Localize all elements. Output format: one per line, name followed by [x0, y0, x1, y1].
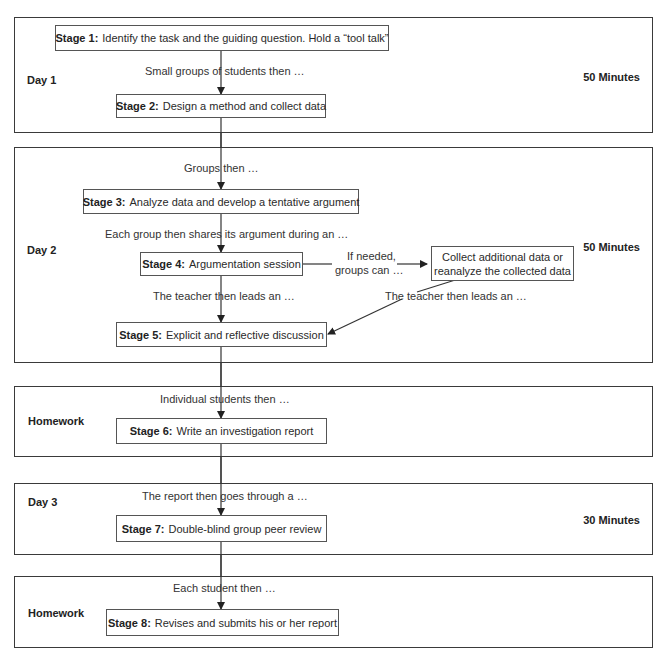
- section-duration: 30 Minutes: [583, 514, 640, 526]
- stage-8-box: Stage 8: Revises and submits his or her …: [106, 609, 339, 636]
- stage-number: Stage 1:: [56, 32, 99, 44]
- connector-label-3: Each group then shares its argument duri…: [105, 228, 348, 240]
- stage-2-box: Stage 2: Design a method and collect dat…: [116, 94, 326, 118]
- branch-condition-line-1: If needed,: [347, 250, 396, 262]
- section-label: Day 3: [28, 496, 57, 508]
- stage-number: Stage 7:: [122, 523, 165, 535]
- stage-text: Analyze data and develop a tentative arg…: [129, 196, 359, 208]
- stage-number: Stage 8:: [108, 617, 151, 629]
- stage-text: Identify the task and the guiding questi…: [102, 32, 388, 44]
- stage-number: Stage 4:: [142, 258, 185, 270]
- section-duration: 50 Minutes: [583, 71, 640, 83]
- connector-label-6: The report then goes through a …: [142, 490, 308, 502]
- connector-label-5: Individual students then …: [160, 393, 290, 405]
- section-homework-1: Homework: [14, 386, 653, 457]
- stage-1-box: Stage 1: Identify the task and the guidi…: [55, 25, 389, 51]
- stage-number: Stage 3:: [83, 196, 126, 208]
- stage-4-box: Stage 4: Argumentation session: [140, 252, 303, 276]
- stage-text: Argumentation session: [189, 258, 301, 270]
- stage-text: Explicit and reflective discussion: [166, 329, 324, 341]
- section-duration: 50 Minutes: [583, 241, 640, 253]
- stage-5-box: Stage 5: Explicit and reflective discuss…: [116, 322, 327, 347]
- stage-text: Design a method and collect data: [163, 100, 326, 112]
- stage-3-box: Stage 3: Analyze data and develop a tent…: [83, 189, 359, 214]
- section-label: Day 1: [27, 74, 56, 86]
- stage-number: Stage 2:: [116, 100, 159, 112]
- connector-label-4: The teacher then leads an …: [153, 290, 295, 302]
- collect-additional-data-box: Collect additional data or reanalyze the…: [431, 246, 574, 281]
- stage-7-box: Stage 7: Double-blind group peer review: [116, 515, 327, 542]
- stage-number: Stage 5:: [119, 329, 162, 341]
- stage-number: Stage 6:: [130, 425, 173, 437]
- stage-text: Double-blind group peer review: [168, 523, 321, 535]
- stage-text: Write an investigation report: [177, 425, 314, 437]
- stage-text: Revises and submits his or her report: [155, 617, 337, 629]
- section-day-3: Day 3 30 Minutes: [14, 483, 653, 555]
- section-label: Day 2: [27, 244, 56, 256]
- connector-label-2: Groups then …: [184, 162, 259, 174]
- connector-label-7: Each student then …: [173, 582, 276, 594]
- section-label: Homework: [28, 415, 84, 427]
- branch-return-label: The teacher then leads an …: [385, 290, 527, 302]
- collect-line-1: Collect additional data or: [432, 250, 573, 264]
- connector-label-1: Small groups of students then …: [145, 65, 305, 77]
- stage-6-box: Stage 6: Write an investigation report: [116, 418, 327, 444]
- section-label: Homework: [28, 607, 84, 619]
- collect-line-2: reanalyze the collected data: [432, 264, 573, 278]
- branch-condition-line-2: groups can …: [335, 264, 403, 276]
